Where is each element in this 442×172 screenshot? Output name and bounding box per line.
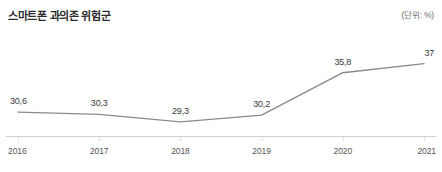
plot-area: 30,630,329,330,235,837: [0, 28, 442, 140]
x-axis-tick: [343, 137, 344, 141]
x-axis-tick-label: 2019: [252, 146, 271, 156]
x-axis-tick: [180, 137, 181, 141]
smartphone-overdependence-chart-card: 스마트폰 과의존 위험군 (단위: %) 30,630,329,330,235,…: [0, 0, 442, 172]
x-axis-tick: [424, 137, 425, 141]
x-axis-tick-label: 2018: [171, 146, 190, 156]
x-axis-tick-label: 2021: [417, 146, 436, 156]
data-point-label: 30,3: [91, 98, 108, 108]
data-point-label: 35,8: [334, 57, 351, 67]
x-axis-tick-label: 2020: [334, 146, 353, 156]
chart-header: 스마트폰 과의존 위험군 (단위: %): [0, 0, 442, 30]
data-point-label: 37: [424, 48, 434, 58]
x-axis-tick-label: 2016: [8, 146, 27, 156]
data-series-line: [18, 64, 424, 122]
x-axis: 201620172018201920202021: [0, 132, 442, 172]
data-point-label: 30,2: [253, 99, 270, 109]
unit-label: (단위: %): [401, 8, 434, 20]
x-axis-line: [6, 136, 436, 137]
page-title: 스마트폰 과의존 위험군: [8, 7, 111, 23]
data-point-label: 29,3: [172, 106, 189, 116]
line-chart-svg: [0, 28, 442, 140]
x-axis-tick: [99, 137, 100, 141]
x-axis-tick-label: 2017: [90, 146, 109, 156]
x-axis-tick: [262, 137, 263, 141]
x-axis-tick: [18, 137, 19, 141]
data-point-label: 30,6: [10, 96, 27, 106]
